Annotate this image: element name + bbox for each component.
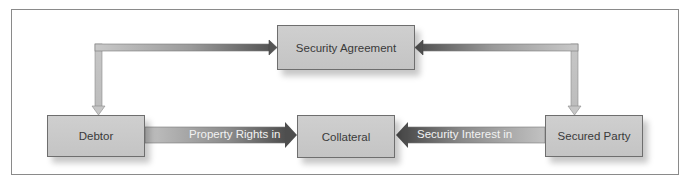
node-collateral: Collateral: [297, 115, 395, 158]
arrowhead-right-icon: [285, 122, 297, 148]
node-label: Debtor: [79, 130, 114, 142]
arrowhead-left-icon: [396, 122, 408, 148]
arrowhead-left-icon: [415, 40, 423, 55]
node-label: Security Agreement: [296, 42, 396, 54]
node-debtor: Debtor: [47, 115, 145, 157]
node-security-agreement: Security Agreement: [277, 25, 415, 70]
arrowhead-down-icon: [92, 106, 105, 115]
connector-debtor-agreement: [92, 40, 277, 115]
connector-securedparty-agreement: [415, 40, 581, 115]
edge-label-property-rights: Property Rights in: [189, 128, 280, 140]
node-label: Collateral: [322, 131, 371, 143]
node-label: Secured Party: [558, 130, 631, 142]
arrowhead-right-icon: [269, 40, 277, 55]
edge-label-security-interest: Security Interest in: [417, 128, 512, 140]
arrowhead-down-icon: [568, 106, 581, 115]
node-secured-party: Secured Party: [545, 115, 643, 157]
